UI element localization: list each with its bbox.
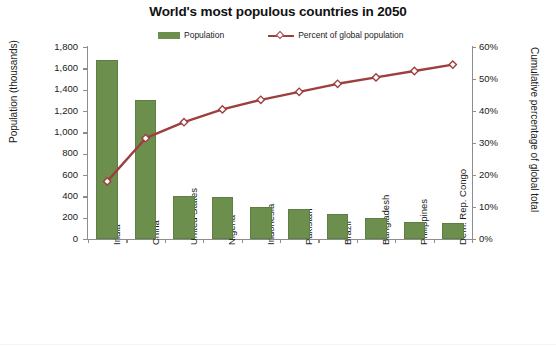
- chart-title: World's most populous countries in 2050: [0, 4, 556, 19]
- y-axis-tick-label: 600: [18, 169, 78, 180]
- legend-label-percent: Percent of global population: [298, 30, 403, 40]
- line-data-point: [334, 80, 341, 87]
- chart-legend: Population Percent of global population: [158, 30, 404, 40]
- bar-swatch-icon: [158, 32, 180, 39]
- y-axis-tick-label: 1,400: [18, 83, 78, 94]
- y-axis-tick: [83, 175, 87, 176]
- x-axis-tick: [357, 239, 358, 243]
- x-axis-tick: [280, 239, 281, 243]
- line-data-point: [219, 106, 226, 113]
- scan-artifact: [0, 344, 556, 345]
- y2-axis-tick: [472, 111, 476, 112]
- x-axis-tick: [126, 239, 127, 243]
- y2-axis-tick: [472, 47, 476, 48]
- line-data-point: [372, 74, 379, 81]
- line-data-point: [296, 88, 303, 95]
- y2-axis-tick: [472, 175, 476, 176]
- y2-axis-tick: [472, 143, 476, 144]
- cumulative-percent-line: [107, 65, 453, 182]
- x-axis-tick: [318, 239, 319, 243]
- y-axis-tick-label: 200: [18, 211, 78, 222]
- line-diamond-icon: [268, 31, 294, 40]
- x-axis-tick: [242, 239, 243, 243]
- y-axis-tick: [83, 111, 87, 112]
- y-axis-tick-label: 1,600: [18, 62, 78, 73]
- y-axis-tick: [83, 154, 87, 155]
- y-axis-tick-label: 1,000: [18, 126, 78, 137]
- y-axis-tick-label: 1,800: [18, 41, 78, 52]
- y-axis-tick: [83, 218, 87, 219]
- chart-container: World's most populous countries in 2050 …: [0, 0, 556, 347]
- legend-item-population: Population: [158, 30, 224, 40]
- x-axis-tick: [88, 239, 89, 243]
- y2-axis-tick-label: 0%: [479, 233, 519, 244]
- line-data-point: [180, 119, 187, 126]
- y-axis-tick-label: 800: [18, 147, 78, 158]
- y2-axis-tick: [472, 207, 476, 208]
- y2-axis-tick-label: 30%: [479, 137, 519, 148]
- x-axis-tick: [165, 239, 166, 243]
- line-data-point: [449, 61, 456, 68]
- y-axis-tick-label: 400: [18, 190, 78, 201]
- legend-label-population: Population: [184, 30, 224, 40]
- y-axis-tick-label: 1,200: [18, 105, 78, 116]
- y2-axis-title: Cumulative percentage of global total: [529, 47, 540, 212]
- y-axis-tick: [83, 132, 87, 133]
- line-series: [88, 47, 472, 239]
- y-axis-tick: [83, 47, 87, 48]
- x-axis-tick: [434, 239, 435, 243]
- y2-axis-tick-label: 20%: [479, 169, 519, 180]
- y2-axis-tick-label: 60%: [479, 41, 519, 52]
- y2-axis-tick: [472, 79, 476, 80]
- line-data-point: [411, 67, 418, 74]
- y-axis-tick: [83, 90, 87, 91]
- line-data-point: [257, 96, 264, 103]
- y-axis-tick: [83, 196, 87, 197]
- y-axis-tick-label: 0: [18, 233, 78, 244]
- y-axis-tick: [83, 239, 87, 240]
- y2-axis-tick-label: 40%: [479, 105, 519, 116]
- x-axis-tick: [203, 239, 204, 243]
- y-axis-tick: [83, 68, 87, 69]
- legend-item-percent: Percent of global population: [268, 30, 403, 40]
- x-axis-tick: [472, 239, 473, 243]
- y2-axis-tick-label: 50%: [479, 73, 519, 84]
- x-axis-tick: [395, 239, 396, 243]
- y2-axis-tick-label: 10%: [479, 201, 519, 212]
